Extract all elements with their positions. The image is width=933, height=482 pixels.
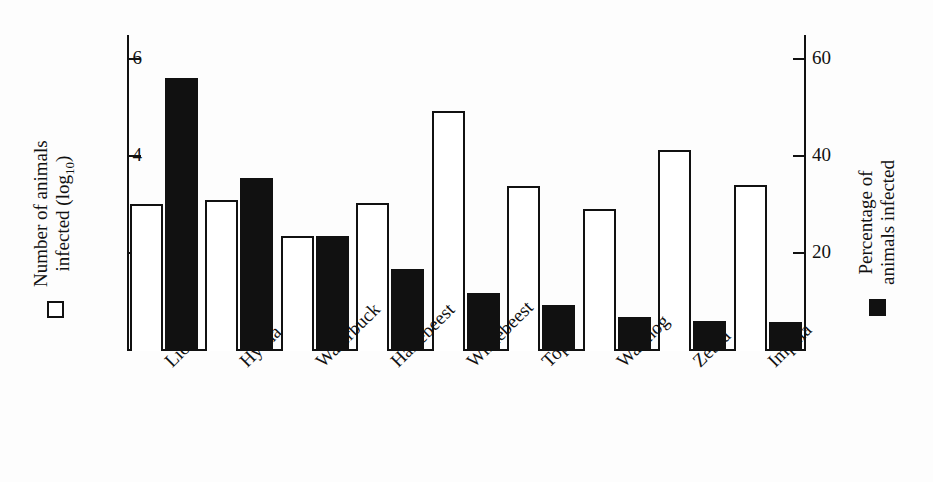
legend-right: Percentage of animals infected <box>855 160 899 316</box>
legend-left-label: Number of animals infected (log10) <box>30 140 81 287</box>
legend-right-line2: animals infected <box>877 160 899 285</box>
legend-left: Number of animals infected (log10) <box>30 140 81 318</box>
y-tick-label-right-60: 60 <box>812 48 831 67</box>
bar-filled-lion <box>165 78 198 351</box>
legend-right-line1: Percentage of <box>855 171 876 275</box>
bar-open-hyena <box>205 200 238 351</box>
bar-chart-figure: 6 4 2 60 40 20 LionHyenaWaterbuckHartebe… <box>0 0 933 482</box>
y-tick-label-right-20: 20 <box>812 242 831 261</box>
legend-left-line1: Number of animals <box>30 140 51 287</box>
y-tick-label-right-40: 40 <box>812 145 831 164</box>
filled-square-icon <box>869 299 886 316</box>
legend-left-line2: infected (log10) <box>52 140 81 287</box>
open-square-icon <box>47 301 64 318</box>
bar-open-warthog <box>583 209 616 351</box>
bar-open-waterbuck <box>281 236 314 351</box>
bar-open-impala <box>734 185 767 351</box>
legend-left-subscript: 10 <box>62 162 77 175</box>
plot-area <box>127 35 806 351</box>
legend-left-line2-close: ) <box>52 156 73 162</box>
legend-right-label: Percentage of animals infected <box>855 160 899 285</box>
bar-open-lion <box>130 204 163 351</box>
legend-left-line2-text: infected (log <box>52 175 73 272</box>
